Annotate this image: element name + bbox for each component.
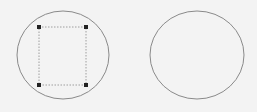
plain-circle-shape[interactable] [150, 11, 244, 99]
resize-handle-bottom-right[interactable] [84, 83, 88, 87]
resize-handle-top-right[interactable] [84, 25, 88, 29]
selection-bounding-box [39, 27, 86, 85]
diagram-canvas[interactable] [0, 0, 257, 112]
selected-circle-shape[interactable] [17, 11, 109, 99]
resize-handle-bottom-left[interactable] [37, 83, 41, 87]
resize-handle-top-left[interactable] [37, 25, 41, 29]
